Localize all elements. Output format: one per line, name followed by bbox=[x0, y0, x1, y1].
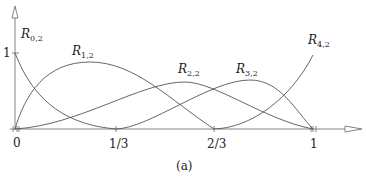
x-tick-label-two-thirds: 2/3 bbox=[207, 137, 226, 151]
label-r22: R2,2 bbox=[177, 62, 200, 78]
curve-r32 bbox=[116, 80, 313, 129]
label-r42: R4,2 bbox=[307, 33, 330, 49]
y-axis-arrow-icon bbox=[12, 6, 18, 18]
x-tick-label-1: 1 bbox=[310, 137, 318, 151]
figure-caption: (a) bbox=[176, 159, 193, 173]
curve-r42 bbox=[214, 55, 313, 129]
x-tick-label-third: 1/3 bbox=[109, 137, 128, 151]
basis-function-diagram: 1 0 1/3 2/3 1 R0,2 R1,2 R2,2 R3,2 R4,2 (… bbox=[0, 0, 366, 187]
x-axis-arrow-icon bbox=[345, 126, 362, 132]
curve-r02 bbox=[15, 53, 116, 129]
label-r32: R3,2 bbox=[235, 62, 258, 78]
y-tick-label: 1 bbox=[3, 46, 11, 60]
label-r02: R0,2 bbox=[20, 27, 43, 43]
x-tick-label-0: 0 bbox=[13, 136, 21, 150]
curve-r22 bbox=[15, 82, 313, 129]
label-r12: R1,2 bbox=[71, 44, 94, 60]
